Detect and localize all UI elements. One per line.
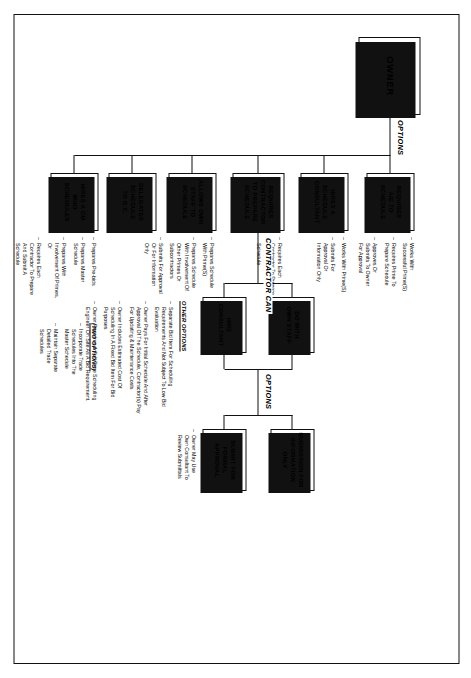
note-bullet: Prepares Schedule With Involvement Of Ot… [167,237,195,311]
connector-to-submit-formal [223,415,224,429]
node-requires-ae-label: REQUIRES A/E TO SCHEDULE [378,185,402,220]
note-bullet: Owner Pays For Initial Schedule And Afte… [126,301,147,479]
node-owner-label: OWNER [383,56,396,96]
node-hire-consultant-label: HIRE CONSULTANT [216,304,232,347]
connector-submittal-bus [224,415,292,416]
connector-to-requires-contractor [257,155,258,173]
node-hire-consultant[interactable]: HIRE CONSULTANT [202,297,246,353]
node-do-with-own-staff-label: DO WITH OWN STAFF [284,306,300,343]
connector-from-do-with-own-staff [291,353,292,369]
diagram-border-frame: OWNER OPTIONS REQUIRES A/E TO SCHEDULE H… [13,14,459,664]
note-bullet: Owner Includes Estimated Cost Of Schedul… [101,301,122,479]
connector-to-hire-consultant [223,283,224,297]
note-bullet: Works With Prime(S) [339,237,346,311]
node-do-with-own-staff[interactable]: DO WITH OWN STAFF [270,297,314,353]
node-submission-for-information-only[interactable]: SUBMISSION FOR INFORMATION ONLY [270,429,314,491]
flow-label-contractor-can: CONTRACTOR CAN [263,237,272,314]
notes-other-options-title: OTHER OPTIONS [178,301,186,479]
note-bullet: Prepares Pre-bids [89,237,96,311]
node-submit-for-formal-approval[interactable]: SUBMIT FOR FORMAL APPROVAL [202,429,246,491]
node-allows-own-staff-label: ALLOWS OWN STAFF TO SCHEDULE [180,180,204,225]
note-bullet: Submits For Approval Or For Information … [142,237,163,311]
note-bullet: Maintain Separate Detailed Trade Schedul… [36,323,57,401]
connector-to-submission-info [291,415,292,429]
node-submit-for-formal-approval-label: SUBMIT FOR FORMAL APPROVAL [212,440,236,479]
note-bullet: Owner Requires A Full Time Scheduling En… [83,301,97,479]
note-bullet: Prepares Master Schedule [71,237,85,311]
node-hires-cm-label: HIRES A CM WHO SCHEDULES [62,183,86,222]
notes-other-options: OTHER OPTIONS Separate Bid Item For Sche… [78,301,186,479]
connector-to-delegates-gc [131,155,132,173]
node-hires-schedule-consultant[interactable]: HIRES A SCHEDULE CONSULTANT [300,173,348,231]
node-hires-cm[interactable]: HIRES A CM WHO SCHEDULES [50,173,98,231]
diagram-page: OWNER OPTIONS REQUIRES A/E TO SCHEDULE H… [0,0,471,678]
notes-requires-ae: Works With Successful Prime(S) Requires … [352,237,414,311]
note-bullet: Requires Each Contractor To Prepare And … [13,237,41,311]
notes-hires-cm: Prepares Pre-bids Prepares Master Schedu… [8,237,96,311]
flow-label-submittal-options: OPTIONS [263,373,272,410]
note-bullet: Submits For Approval Or Information Only [313,237,334,311]
connector-submittal-stem [257,369,258,415]
connector-owner-bus [74,155,390,156]
node-allows-own-staff[interactable]: ALLOWS OWN STAFF TO SCHEDULE [168,173,216,231]
node-submission-for-information-only-label: SUBMISSION FOR INFORMATION ONLY [280,432,304,487]
connector-from-hire-consultant [223,353,224,369]
note-bullet: Works With Successful Prime(S) [400,237,414,311]
connector-to-allows-own-staff [191,155,192,173]
diagram-canvas: OWNER OPTIONS REQUIRES A/E TO SCHEDULE H… [12,15,458,665]
connector-to-do-with-own-staff [291,283,292,297]
node-delegates-to-gc[interactable]: DELEGATES SCHEDULE TO G.C. [108,173,156,231]
connector-to-requires-ae [389,155,390,173]
note-bullet: Prepares With Involvement Of Primes, Or [45,237,66,311]
connector-owner-stem [389,115,390,155]
node-requires-contractor[interactable]: REQUIRES CONTRACTOR TO PREPARE SCHEDULE [232,173,284,231]
connector-to-hires-consultant [323,155,324,173]
node-delegates-to-gc-label: DELEGATES SCHEDULE TO G.C. [120,183,144,221]
node-owner[interactable]: OWNER [358,37,420,115]
connector-to-hires-cm [73,155,74,173]
flow-label-owner-options: OPTIONS [395,119,404,156]
note-bullet: Approves Or Submits To Owner For Approva… [356,237,377,311]
node-requires-contractor-label: REQUIRES CONTRACTOR TO PREPARE SCHEDULE [242,180,274,225]
note-bullet: Requires Prime To Prepare Schedule [381,237,395,311]
note-bullet: Separate Bid Item For Scheduling Require… [152,301,173,479]
notes-hires-consultant: Works With Prime(S) Submits For Approval… [309,237,346,311]
node-hires-schedule-consultant-label: HIRES A SCHEDULE CONSULTANT [312,181,336,224]
node-requires-ae[interactable]: REQUIRES A/E TO SCHEDULE [366,173,414,231]
